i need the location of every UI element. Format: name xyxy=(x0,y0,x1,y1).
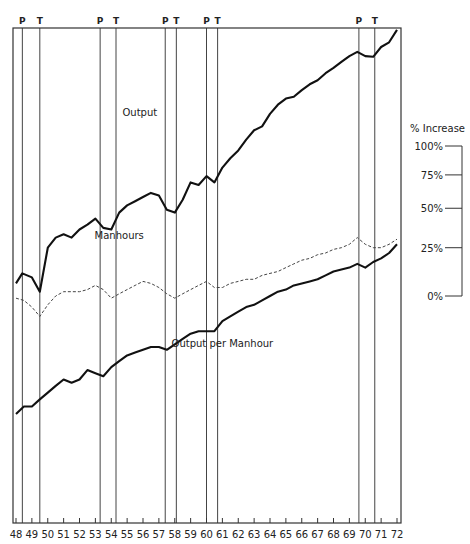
x-tick-label-71: 71 xyxy=(375,529,388,540)
scale-label-100: 100% xyxy=(414,141,443,152)
x-tick-label-63: 63 xyxy=(248,529,261,540)
manhours-label: Manhours xyxy=(95,230,144,241)
percent-scale: % Increase100%75%50%25%0% xyxy=(410,123,465,302)
x-tick-label-69: 69 xyxy=(343,529,356,540)
peak-label-8: P xyxy=(356,16,363,26)
x-tick-label-51: 51 xyxy=(57,529,70,540)
x-tick-label-55: 55 xyxy=(121,529,134,540)
x-tick-label-53: 53 xyxy=(89,529,102,540)
trough-label-3: T xyxy=(113,16,120,26)
output-label: Output xyxy=(122,107,157,118)
x-tick-label-61: 61 xyxy=(216,529,229,540)
x-tick-label-59: 59 xyxy=(184,529,197,540)
x-tick-label-65: 65 xyxy=(280,529,293,540)
trough-label-1: T xyxy=(37,16,44,26)
cycle-markers: PTPTPTPTPT xyxy=(19,16,379,523)
x-tick-label-56: 56 xyxy=(137,529,150,540)
x-tick-label-54: 54 xyxy=(105,529,118,540)
scale-label-0: 0% xyxy=(427,291,443,302)
x-tick-label-68: 68 xyxy=(327,529,340,540)
peak-label-0: P xyxy=(19,16,26,26)
x-tick-label-70: 70 xyxy=(359,529,372,540)
x-tick-label-48: 48 xyxy=(10,529,23,540)
x-tick-label-60: 60 xyxy=(200,529,213,540)
scale-title: % Increase xyxy=(410,123,465,134)
x-tick-label-50: 50 xyxy=(41,529,54,540)
x-tick-label-66: 66 xyxy=(295,529,308,540)
trough-label-9: T xyxy=(372,16,379,26)
productivity-chart: PTPTPTPTPT 48495051525354555657585960616… xyxy=(0,0,470,544)
x-tick-label-62: 62 xyxy=(232,529,245,540)
peak-label-2: P xyxy=(97,16,104,26)
trough-label-7: T xyxy=(215,16,222,26)
x-tick-label-58: 58 xyxy=(168,529,181,540)
x-tick-label-67: 67 xyxy=(311,529,324,540)
scale-label-75: 75% xyxy=(421,170,443,181)
x-tick-label-49: 49 xyxy=(26,529,39,540)
x-tick-label-64: 64 xyxy=(264,529,277,540)
peak-label-6: P xyxy=(203,16,210,26)
output-per-manhour-label: Output per Manhour xyxy=(172,338,275,349)
peak-label-4: P xyxy=(162,16,169,26)
scale-label-25: 25% xyxy=(421,243,443,254)
scale-label-50: 50% xyxy=(421,203,443,214)
x-tick-label-52: 52 xyxy=(73,529,86,540)
x-axis: 4849505152535455565758596061626364656667… xyxy=(10,518,404,540)
trough-label-5: T xyxy=(173,16,180,26)
x-tick-label-57: 57 xyxy=(153,529,166,540)
x-tick-label-72: 72 xyxy=(391,529,404,540)
